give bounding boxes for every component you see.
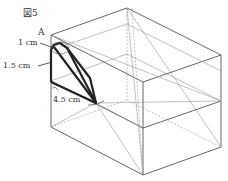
- length-4-5cm-label: 4.5 cm: [53, 96, 80, 104]
- length-1cm-label: 1 cm: [18, 39, 38, 47]
- figure-title: 図5: [23, 9, 38, 18]
- length-1-5cm-label: 1.5 cm: [3, 62, 30, 70]
- point-a-label: A: [38, 28, 45, 37]
- cuboid-diagram: [0, 0, 228, 181]
- cuboid-edges: [51, 8, 221, 175]
- hidden-lines: [51, 8, 221, 175]
- bold-section: [51, 43, 96, 103]
